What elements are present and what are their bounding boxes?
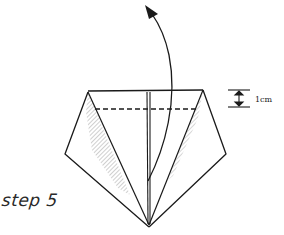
center-crease [147, 92, 150, 224]
curved-arrow-up-icon [145, 5, 172, 181]
left-inner-flap [86, 92, 149, 225]
double-arrow-measure-icon [228, 90, 250, 107]
right-inner-flap [149, 90, 203, 225]
origami-diagram: 1cm step 5 [0, 0, 284, 235]
measurement-label: 1cm [255, 95, 272, 104]
step-label: step 5 [1, 190, 59, 210]
